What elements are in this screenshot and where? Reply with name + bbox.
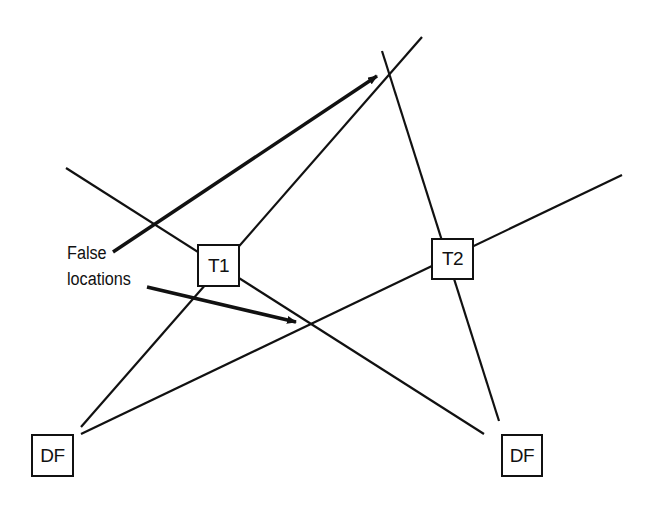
false-locations-label: False locations	[67, 240, 131, 292]
node-df-left: DF	[31, 434, 74, 477]
bearing-line-df-left-t1	[81, 37, 422, 427]
label-line-2: locations	[67, 266, 131, 292]
node-label: DF	[40, 445, 64, 467]
node-label: T2	[442, 248, 463, 270]
false-location-arrows	[113, 76, 377, 322]
node-df-right: DF	[501, 434, 543, 477]
bearing-line-df-right-t1	[66, 168, 484, 434]
node-t2: T2	[431, 238, 474, 280]
bearing-line-df-left-t2	[81, 175, 622, 434]
label-line-1: False	[67, 240, 131, 266]
false-location-arrow-upper	[113, 76, 377, 252]
node-label: DF	[510, 445, 534, 467]
false-location-arrow-lower	[147, 287, 296, 322]
bearing-line-df-right-t2	[382, 51, 499, 421]
node-t1: T1	[197, 244, 240, 287]
node-label: T1	[208, 255, 229, 277]
